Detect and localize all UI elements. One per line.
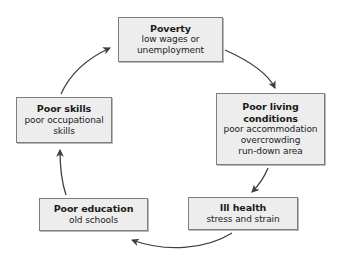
node-poverty-title: Poverty xyxy=(150,23,191,35)
node-poor-living-conditions-detail-1: poor accommodation xyxy=(224,124,318,135)
node-poor-skills-detail-2: skills xyxy=(53,126,75,137)
node-poor-living-conditions[interactable]: Poor living conditions poor accommodatio… xyxy=(216,93,325,165)
arrow-illhealth-to-education xyxy=(132,233,232,248)
arrow-living-to-illhealth xyxy=(252,168,268,192)
cycle-diagram: Poverty low wages or unemployment Poor l… xyxy=(0,0,338,262)
node-poor-education-title: Poor education xyxy=(54,203,134,215)
node-poverty-detail-2: unemployment xyxy=(137,45,204,56)
node-poor-skills[interactable]: Poor skills poor occupational skills xyxy=(16,97,112,143)
node-poor-living-conditions-detail-3: run-down area xyxy=(238,146,302,157)
node-ill-health-detail-1: stress and strain xyxy=(206,214,279,225)
node-ill-health-title: Ill health xyxy=(220,202,267,214)
node-poverty-detail-1: low wages or xyxy=(142,34,200,45)
node-poor-living-conditions-title-1: Poor living xyxy=(242,101,298,113)
arrow-education-to-skills xyxy=(60,150,66,195)
arrow-skills-to-poverty xyxy=(61,48,110,94)
node-poor-skills-detail-1: poor occupational xyxy=(24,115,103,126)
node-ill-health[interactable]: Ill health stress and strain xyxy=(188,197,298,230)
node-poor-education[interactable]: Poor education old schools xyxy=(39,198,148,231)
node-poor-education-detail-1: old schools xyxy=(69,215,118,226)
arrow-poverty-to-living xyxy=(225,50,275,88)
node-poverty[interactable]: Poverty low wages or unemployment xyxy=(118,17,223,62)
node-poor-living-conditions-title-2: conditions xyxy=(243,113,298,125)
node-poor-skills-title: Poor skills xyxy=(37,103,91,115)
node-poor-living-conditions-detail-2: overcrowding xyxy=(241,135,301,146)
